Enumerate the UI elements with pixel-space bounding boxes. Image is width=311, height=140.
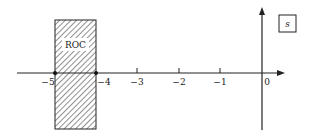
tick-label: 0 xyxy=(264,77,270,87)
imaginary-axis xyxy=(259,7,265,130)
arrow-right-icon xyxy=(277,70,285,76)
pole-marker xyxy=(94,71,98,75)
roc-label: ROC xyxy=(65,40,86,50)
tick-label: −3 xyxy=(130,77,144,87)
arrow-up-icon xyxy=(259,7,265,15)
tick-label: −2 xyxy=(172,77,185,87)
pole-marker xyxy=(53,71,57,75)
s-plane-diagram: ROC −5 −4 −3 −2 −1 0 s xyxy=(0,0,311,140)
roc-region: ROC xyxy=(55,20,96,129)
tick-label: −4 xyxy=(97,77,111,87)
plane-label-box: s xyxy=(279,15,296,32)
plane-label: s xyxy=(285,19,290,29)
tick-label: −5 xyxy=(41,77,55,87)
tick-label: −1 xyxy=(213,77,226,87)
